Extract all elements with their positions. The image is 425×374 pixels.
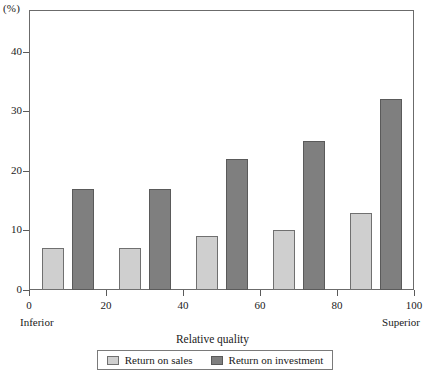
- x-axis-tick-label: 40: [163, 299, 203, 311]
- x-axis-tick-label: 80: [317, 299, 357, 311]
- x-axis-tick-label: 20: [86, 299, 126, 311]
- x-axis-tick: [337, 290, 338, 296]
- y-axis-spine: [29, 10, 30, 291]
- legend-label: Return on investment: [229, 354, 324, 366]
- legend-label: Return on sales: [125, 354, 193, 366]
- legend-item: Return on sales: [107, 354, 193, 366]
- x-axis-end-label-right: Superior: [382, 316, 420, 329]
- y-axis-unit-label: (%): [3, 2, 20, 15]
- x-axis-tick: [414, 290, 415, 296]
- x-axis-tick: [29, 290, 30, 296]
- y-axis-tick-label: 20: [0, 165, 22, 176]
- y-axis-tick-label: 0: [0, 284, 22, 295]
- y-axis-tick-label: 40: [0, 46, 22, 57]
- x-axis-end-label-left: Inferior: [20, 316, 54, 329]
- legend-swatch-icon: [211, 356, 223, 365]
- legend-swatch-icon: [107, 356, 119, 365]
- x-axis-tick-label: 100: [394, 299, 425, 311]
- chart-legend: Return on salesReturn on investment: [97, 350, 333, 370]
- legend-item: Return on investment: [211, 354, 324, 366]
- x-axis-tick: [183, 290, 184, 296]
- x-axis-tick-label: 60: [240, 299, 280, 311]
- x-axis-tick: [260, 290, 261, 296]
- y-axis-tick-label: 10: [0, 224, 22, 235]
- x-axis-title: Relative quality: [0, 333, 425, 346]
- x-axis-tick: [106, 290, 107, 296]
- x-axis-tick-label: 0: [9, 299, 49, 311]
- plot-area-frame: [29, 10, 414, 290]
- y-axis-tick-label: 30: [0, 105, 22, 116]
- bar-chart: (%) 010203040 020406080100 Inferior Supe…: [0, 0, 425, 374]
